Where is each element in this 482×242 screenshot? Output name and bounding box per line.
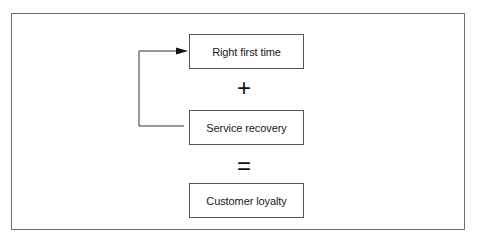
box-right-first-time: Right first time bbox=[189, 34, 304, 69]
arrow-right-icon bbox=[176, 48, 188, 55]
box-label: Service recovery bbox=[206, 122, 286, 134]
box-customer-loyalty: Customer loyalty bbox=[189, 183, 304, 218]
box-label: Customer loyalty bbox=[206, 195, 286, 207]
box-label: Right first time bbox=[212, 46, 281, 58]
equals-operator: = bbox=[229, 155, 259, 177]
plus-operator: + bbox=[229, 77, 259, 99]
box-service-recovery: Service recovery bbox=[189, 110, 304, 145]
feedback-line bbox=[139, 51, 184, 126]
